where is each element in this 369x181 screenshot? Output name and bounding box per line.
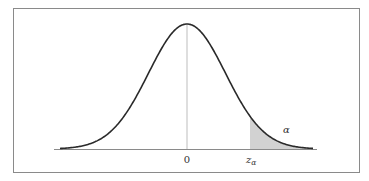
- normal-curve-chart: 0 zα α: [0, 0, 369, 181]
- alpha-area-label: α: [283, 124, 290, 135]
- normal-distribution-figure: 0 zα α: [0, 0, 369, 181]
- alpha-shaded-region: [250, 116, 313, 149]
- tick-label-zero: 0: [184, 154, 190, 165]
- z-alpha-subscript: α: [251, 158, 256, 167]
- tick-label-z-alpha: zα: [245, 154, 256, 167]
